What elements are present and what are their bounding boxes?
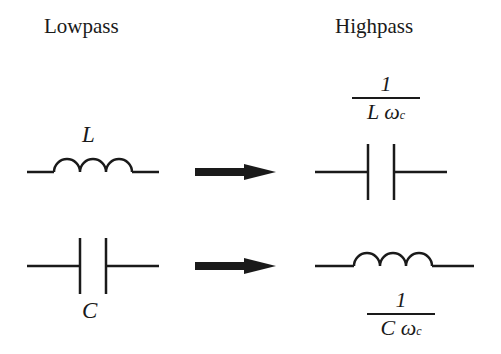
lowpass-capacitor-symbol [27, 238, 159, 294]
highpass-capacitor-symbol [315, 144, 447, 200]
lowpass-inductor-symbol [27, 159, 159, 172]
arrow-icons [195, 164, 276, 274]
circuit-diagram [0, 0, 501, 354]
highpass-inductor-symbol [315, 253, 474, 266]
